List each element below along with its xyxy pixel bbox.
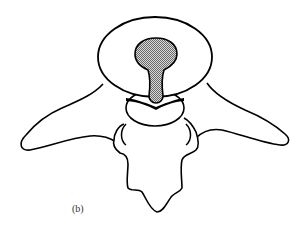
panel-label: (b) bbox=[72, 203, 84, 214]
left-transverse-process bbox=[21, 84, 116, 150]
spinous-process bbox=[113, 118, 198, 212]
vertebra-diagram bbox=[0, 0, 306, 233]
right-transverse-process bbox=[196, 83, 289, 145]
panel-label-text: (b) bbox=[72, 203, 84, 214]
